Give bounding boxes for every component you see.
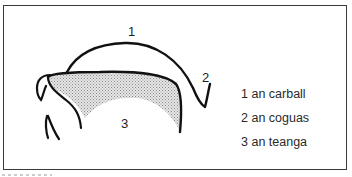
legend-number: 3	[241, 135, 248, 149]
caption-fragment	[2, 174, 52, 176]
legend-item-1: 1 an carball	[241, 82, 309, 106]
legend-text: an teanga	[251, 135, 307, 149]
legend-text: an carball	[251, 87, 305, 101]
lower-lip-line	[46, 116, 59, 139]
legend-text: an coguas	[251, 111, 309, 125]
legend-number: 2	[241, 111, 248, 125]
label-2: 2	[202, 70, 209, 85]
legend-item-3: 3 an teanga	[241, 130, 309, 154]
legend: 1 an carball 2 an coguas 3 an teanga	[241, 82, 309, 154]
legend-number: 1	[241, 87, 248, 101]
label-3: 3	[121, 116, 128, 131]
label-1: 1	[128, 24, 135, 39]
legend-item-2: 2 an coguas	[241, 106, 309, 130]
